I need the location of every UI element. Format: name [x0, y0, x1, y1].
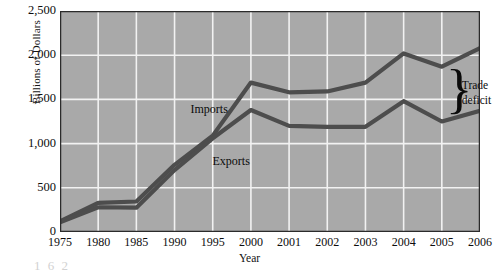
trade-deficit-label-line1: Trade [462, 79, 488, 92]
x-tick-label: 1985 [124, 235, 148, 250]
chart-canvas [60, 11, 480, 232]
x-tick-label: 2006 [468, 235, 492, 250]
x-tick-label: 2002 [315, 235, 339, 250]
x-tick-label: 1995 [201, 235, 225, 250]
x-tick-label: 2005 [430, 235, 454, 250]
y-axis-ticks: 05001,0001,5002,0002,500 [0, 0, 56, 272]
plot-area: Imports Exports } Trade deficit [60, 11, 480, 232]
x-tick-label: 2001 [277, 235, 301, 250]
x-tick-label: 1980 [86, 235, 110, 250]
x-tick-label: 1990 [163, 235, 187, 250]
y-axis-title: Billions of Dollars [30, 0, 42, 142]
x-tick-label: 2004 [392, 235, 416, 250]
x-tick-label: 2003 [353, 235, 377, 250]
x-tick-label: 1975 [48, 235, 72, 250]
series-label-imports: Imports [191, 102, 228, 117]
x-axis-ticks: 1975198019851990199520002001200220032004… [0, 235, 499, 253]
x-axis-title: Year [0, 252, 499, 264]
figure-caption-fragment: 1 6 2 [34, 258, 70, 272]
series-label-exports: Exports [213, 154, 250, 169]
trade-deficit-label-line2: deficit [462, 94, 491, 107]
y-tick-label: 500 [10, 181, 56, 194]
plot-background [60, 11, 480, 232]
trade-deficit-figure: 05001,0001,5002,0002,500 Billions of Dol… [0, 0, 499, 272]
x-tick-label: 2000 [239, 235, 263, 250]
